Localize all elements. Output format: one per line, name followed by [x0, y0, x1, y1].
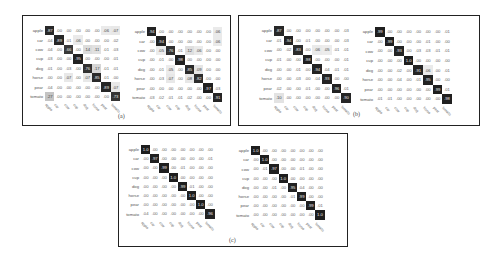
- matrix-cell: .00: [203, 55, 212, 64]
- matrix-cell: .00: [203, 46, 212, 55]
- matrix-cell: .00: [194, 36, 203, 45]
- row-label: dog: [15, 66, 43, 71]
- matrix-cell: .00: [101, 92, 110, 101]
- matrix-cell: .00: [315, 155, 324, 164]
- matrix-cell: .00: [315, 174, 324, 183]
- matrix-cell: .00: [141, 182, 150, 191]
- row-label: pear: [345, 87, 373, 92]
- row-label: tomato: [117, 95, 145, 100]
- matrix-cell: .27: [45, 92, 54, 101]
- matrix-cell: .97: [203, 83, 212, 92]
- matrix-cell: .00: [150, 191, 159, 200]
- matrix-cell: .00: [159, 173, 168, 182]
- matrix-cell: .00: [187, 163, 196, 172]
- row-label: dog: [221, 185, 249, 190]
- matrix-cell: .00: [433, 65, 443, 75]
- matrix-cell: .98: [442, 94, 452, 104]
- matrix-cell: .01: [175, 46, 184, 55]
- matrix-cell: .00: [150, 200, 159, 209]
- matrix-cell: .00: [169, 200, 178, 209]
- caption-c: (c): [229, 237, 236, 243]
- matrix-cell: .00: [159, 154, 168, 163]
- matrix-cell: .00: [284, 26, 294, 36]
- row-label: horse: [221, 194, 249, 199]
- matrix-cell: .00: [306, 146, 315, 155]
- row-label: cup: [221, 176, 249, 181]
- matrix-cell: .04: [312, 74, 322, 84]
- matrix-cell: .00: [288, 174, 297, 183]
- matrix-cell: .00: [213, 55, 222, 64]
- row-label: pear: [244, 86, 272, 91]
- matrix-cell: .00: [251, 183, 260, 192]
- matrix-cell: .00: [322, 26, 332, 36]
- matrix-cell: .00: [141, 154, 150, 163]
- matrix-cell: .00: [332, 93, 342, 103]
- matrix-cell: .00: [297, 155, 306, 164]
- matrix-cell: .82: [194, 74, 203, 83]
- matrix-cell: .00: [394, 56, 404, 66]
- matrix-cell: .00: [413, 27, 423, 37]
- matrix-cell: .01: [332, 45, 342, 55]
- matrix-cell: .96: [205, 209, 214, 218]
- matrix-cell: .00: [169, 182, 178, 191]
- matrix-cell: .00: [322, 93, 332, 103]
- matrix-cell: .00: [178, 145, 187, 154]
- matrix-cell: .00: [147, 36, 156, 45]
- row-label: car: [221, 157, 249, 162]
- matrix-cell: .01: [166, 93, 175, 102]
- matrix-cell: .00: [413, 94, 423, 104]
- matrix-cell: .01: [442, 27, 452, 37]
- row-label: car: [244, 38, 272, 43]
- matrix-cell: .00: [332, 26, 342, 36]
- matrix-cell: .00: [147, 83, 156, 92]
- matrix-cell: .00: [297, 174, 306, 183]
- row-label: cup: [117, 57, 145, 62]
- matrix-cell: .98: [303, 55, 313, 65]
- matrix-cell: .00: [385, 46, 395, 56]
- matrix-cell: .76: [166, 46, 175, 55]
- matrix-cell: .00: [404, 46, 414, 56]
- matrix-cell: .00: [159, 209, 168, 218]
- row-label: horse: [117, 76, 145, 81]
- matrix-cell: .01: [178, 163, 187, 172]
- matrix-cell: .00: [251, 210, 260, 219]
- matrix-cell: .00: [260, 201, 269, 210]
- matrix-cell: .00: [101, 35, 110, 44]
- matrix-cell: 1.0: [404, 56, 414, 66]
- matrix-cell: .00: [284, 93, 294, 103]
- matrix-cell: .03: [64, 64, 73, 73]
- matrix-cell: .95: [423, 75, 433, 85]
- matrix-cell: 1.0: [196, 200, 205, 209]
- matrix-cell: .00: [185, 55, 194, 64]
- matrix-cell: .00: [203, 27, 212, 36]
- matrix-cell: .00: [141, 163, 150, 172]
- matrix-cell: .06: [423, 65, 433, 75]
- matrix-cell: .00: [92, 82, 101, 91]
- matrix-cell: .99: [375, 27, 385, 37]
- matrix-cell: .00: [213, 46, 222, 55]
- matrix-cell: .00: [394, 37, 404, 47]
- row-label: tomato: [244, 96, 272, 101]
- matrix-cell: .00: [404, 27, 414, 37]
- matrix-cell: .00: [156, 83, 165, 92]
- matrix-cell: .06: [194, 46, 203, 55]
- matrix-cell: .00: [203, 36, 212, 45]
- matrix-cell: .93: [322, 74, 332, 84]
- matrix-cell: .00: [442, 37, 452, 47]
- matrix-cell: .00: [156, 27, 165, 36]
- matrix-cell: .93: [394, 46, 404, 56]
- matrix-cell: .99: [433, 85, 443, 95]
- matrix-cell: .00: [83, 26, 92, 35]
- matrix-cell: .00: [433, 94, 443, 104]
- matrix-cell: .99: [385, 37, 395, 47]
- matrix-cell: .01: [274, 36, 284, 46]
- matrix-cell: .03: [147, 93, 156, 102]
- matrix-cell: .00: [385, 56, 395, 66]
- matrix-cell: .98: [175, 55, 184, 64]
- row-label: cup: [345, 58, 373, 63]
- row-label: dog: [117, 67, 145, 72]
- matrix-cell: .00: [150, 145, 159, 154]
- matrix-cell: .00: [297, 201, 306, 210]
- matrix-cell: .07: [83, 73, 92, 82]
- matrix-cell: .94: [284, 36, 294, 46]
